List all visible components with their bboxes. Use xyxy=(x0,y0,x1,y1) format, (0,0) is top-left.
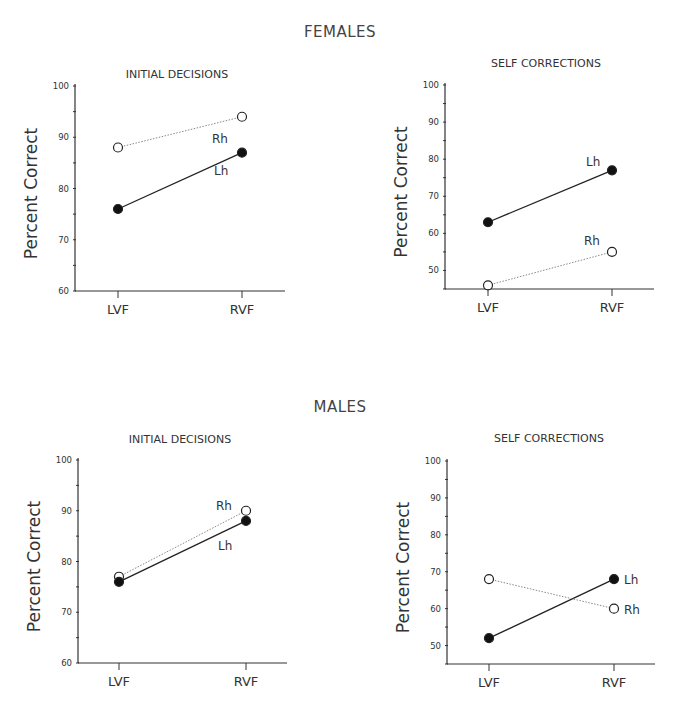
filled-circle-marker xyxy=(242,516,251,525)
chart-1: INITIAL DECISIONS60708090100Percent Corr… xyxy=(21,68,285,317)
open-circle-marker xyxy=(484,281,493,290)
y-tick-label: 90 xyxy=(58,132,69,142)
x-tick-label: RVF xyxy=(230,302,255,317)
chart-title: INITIAL DECISIONS xyxy=(129,433,231,446)
y-axis-label: Percent Correct xyxy=(21,127,41,259)
chart-title: INITIAL DECISIONS xyxy=(126,68,228,81)
series-label-lh: Lh xyxy=(586,155,600,169)
y-tick-label: 80 xyxy=(430,530,441,540)
chart-2: SELF CORRECTIONS5060708090100Percent Cor… xyxy=(391,57,654,315)
chart-title: SELF CORRECTIONS xyxy=(491,57,601,70)
chart-title: SELF CORRECTIONS xyxy=(494,432,604,445)
x-tick-label: LVF xyxy=(477,300,499,315)
y-axis-label: Percent Correct xyxy=(24,500,44,632)
x-tick-label: LVF xyxy=(108,674,130,689)
series-line-lh xyxy=(488,170,612,222)
y-tick-label: 90 xyxy=(61,506,72,516)
y-tick-label: 50 xyxy=(428,265,439,275)
y-tick-label: 60 xyxy=(430,604,441,614)
series-line-rh xyxy=(488,252,612,285)
x-tick-label: LVF xyxy=(478,675,500,690)
series-label-rh: Rh xyxy=(624,603,640,617)
open-circle-marker xyxy=(610,604,619,613)
y-tick-label: 100 xyxy=(423,80,439,90)
y-tick-label: 90 xyxy=(430,493,441,503)
filled-circle-marker xyxy=(114,205,123,214)
filled-circle-marker xyxy=(484,218,493,227)
y-tick-label: 70 xyxy=(428,191,439,201)
open-circle-marker xyxy=(114,143,123,152)
y-axis-label: Percent Correct xyxy=(391,126,411,258)
filled-circle-marker xyxy=(485,634,494,643)
y-tick-label: 80 xyxy=(61,557,72,567)
chart-4: SELF CORRECTIONS5060708090100Percent Cor… xyxy=(393,432,655,690)
chart-3: INITIAL DECISIONS60708090100Percent Corr… xyxy=(24,433,287,689)
series-label-rh: Rh xyxy=(584,234,600,248)
filled-circle-marker xyxy=(238,148,247,157)
series-label-lh: Lh xyxy=(624,573,638,587)
x-tick-label: RVF xyxy=(600,300,625,315)
open-circle-marker xyxy=(608,247,617,256)
series-line-lh xyxy=(489,579,614,638)
y-tick-label: 60 xyxy=(61,658,72,668)
series-line-rh xyxy=(489,579,614,609)
series-label-lh: Lh xyxy=(218,539,232,553)
y-tick-label: 90 xyxy=(428,117,439,127)
y-tick-label: 70 xyxy=(61,607,72,617)
y-tick-label: 100 xyxy=(56,455,72,465)
y-tick-label: 80 xyxy=(58,184,69,194)
y-tick-label: 50 xyxy=(430,641,441,651)
chart-canvas: INITIAL DECISIONS60708090100Percent Corr… xyxy=(0,0,678,709)
y-tick-label: 60 xyxy=(428,228,439,238)
y-tick-label: 70 xyxy=(430,567,441,577)
filled-circle-marker xyxy=(115,577,124,586)
x-tick-label: LVF xyxy=(107,302,129,317)
filled-circle-marker xyxy=(610,575,619,584)
y-tick-label: 100 xyxy=(425,456,441,466)
x-tick-label: RVF xyxy=(602,675,627,690)
series-label-rh: Rh xyxy=(216,499,232,513)
series-label-lh: Lh xyxy=(214,164,228,178)
y-tick-label: 70 xyxy=(58,235,69,245)
y-tick-label: 60 xyxy=(58,286,69,296)
series-label-rh: Rh xyxy=(212,132,228,146)
y-tick-label: 80 xyxy=(428,154,439,164)
open-circle-marker xyxy=(238,112,247,121)
series-line-lh xyxy=(118,153,242,209)
open-circle-marker xyxy=(242,506,251,515)
y-tick-label: 100 xyxy=(53,81,69,91)
y-axis-label: Percent Correct xyxy=(393,501,413,633)
open-circle-marker xyxy=(485,575,494,584)
x-tick-label: RVF xyxy=(234,674,259,689)
filled-circle-marker xyxy=(608,166,617,175)
